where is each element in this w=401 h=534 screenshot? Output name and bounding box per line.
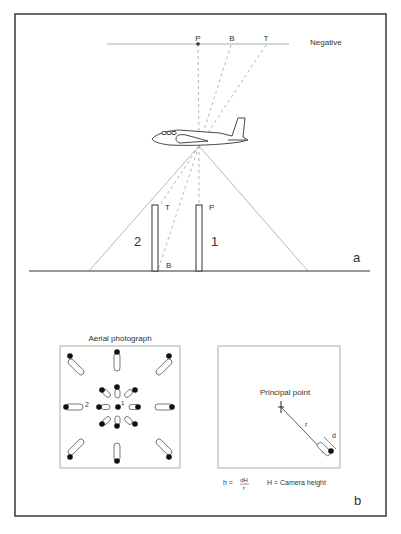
tower-2-top-label: T: [165, 203, 170, 212]
negative-label: Negative: [310, 38, 342, 47]
panel-a: P B T Negative T: [29, 34, 370, 271]
fov-right-line: [199, 146, 308, 271]
formula-lhs: h =: [223, 479, 233, 486]
tower-1: [196, 205, 202, 271]
airplane-icon: [152, 118, 248, 145]
tower-2-base-label: B: [166, 261, 171, 270]
left-object-label: 2: [85, 401, 89, 408]
negative-p-label: P: [195, 34, 200, 43]
sample-base-dot: [328, 448, 334, 454]
fov-left-line: [89, 146, 199, 271]
formula-numerator: dH: [240, 477, 248, 483]
negative-t-label: T: [264, 34, 269, 43]
center-object-label: 1: [121, 400, 125, 406]
panel-b: Aerial photograph: [60, 334, 361, 508]
panel-b-letter: b: [354, 493, 361, 508]
principal-point-label: Principal point: [260, 388, 311, 397]
negative-b-label: B: [229, 34, 234, 43]
figure-canvas: P B T Negative T: [0, 0, 401, 534]
tower-1-top-label: P: [209, 203, 214, 212]
panel-a-letter: a: [353, 250, 361, 265]
formula-denominator: r: [243, 485, 245, 491]
d-label: d: [332, 432, 336, 439]
tower-2: [152, 205, 158, 271]
r-label: r: [305, 421, 308, 428]
camera-height-note: H = Camera height: [267, 479, 326, 487]
tower-2-number: 2: [134, 234, 141, 249]
aerial-photo-title: Aerial photograph: [88, 334, 151, 343]
tower-1-number: 1: [211, 234, 218, 249]
